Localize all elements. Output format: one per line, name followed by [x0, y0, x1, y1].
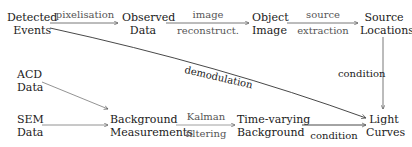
- node-label-line: Background: [237, 126, 301, 139]
- edge-label-filtering: filtering: [178, 128, 234, 140]
- node-label-line: Locations: [360, 24, 408, 37]
- edge-label-image: image: [170, 9, 246, 21]
- edge-label-condition-bottom: condition: [306, 130, 362, 142]
- edge-label-pixelisation: pixelisation: [55, 9, 115, 21]
- node-label-line: Observed: [122, 11, 164, 24]
- node-time-varying-background: Time-varying Background: [237, 113, 301, 139]
- node-light-curves: Light Curves: [366, 113, 402, 139]
- node-acd-data: ACD Data: [17, 68, 43, 94]
- edge-acd-to-background: [42, 82, 108, 109]
- node-label-line: Curves: [366, 126, 402, 139]
- edge-label-condition-vertical: condition: [338, 68, 385, 80]
- node-object-image: Object Image: [252, 11, 284, 37]
- node-label-line: Object: [252, 11, 284, 24]
- node-label-line: Data: [122, 24, 164, 37]
- node-label-line: Light: [366, 113, 402, 126]
- node-label-line: SEM: [17, 113, 44, 126]
- node-source-locations: Source Locations: [360, 11, 408, 37]
- node-label-line: Data: [17, 126, 44, 139]
- node-label-line: Background: [110, 113, 174, 126]
- edge-label-extraction: extraction: [290, 25, 356, 37]
- edge-label-reconstruct: reconstruct.: [170, 25, 246, 37]
- edge-label-source: source: [290, 9, 356, 21]
- node-label-line: ACD: [17, 68, 43, 81]
- node-background-measurements: Background Measurements: [110, 113, 174, 139]
- node-label-line: Source: [360, 11, 408, 24]
- edge-label-kalman: Kalman: [178, 111, 234, 123]
- node-label-line: Time-varying: [237, 113, 301, 126]
- node-label-line: Measurements: [110, 126, 174, 139]
- node-detected-events: Detected Events: [7, 11, 57, 37]
- node-label-line: Events: [7, 24, 57, 37]
- node-label-line: Data: [17, 81, 43, 94]
- node-sem-data: SEM Data: [17, 113, 44, 139]
- node-observed-data: Observed Data: [122, 11, 164, 37]
- node-label-line: Image: [252, 24, 284, 37]
- node-label-line: Detected: [7, 11, 57, 24]
